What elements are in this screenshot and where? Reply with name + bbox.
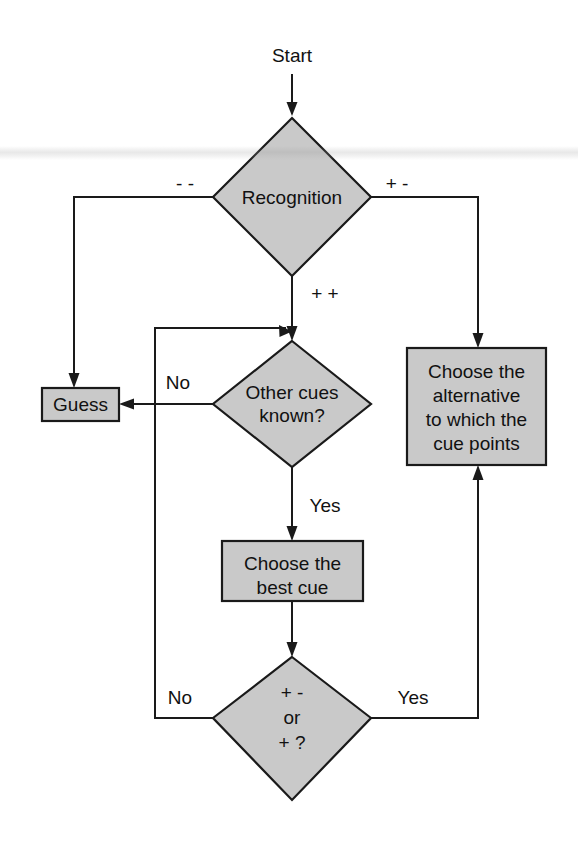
edge-recognition-positive-negative: [371, 197, 484, 348]
edge-validity-yes: [371, 465, 484, 718]
node-choose-alternative-line-3: to which the: [426, 409, 527, 430]
edge-label-recognition-left: - -: [176, 173, 194, 194]
node-guess[interactable]: Guess: [42, 388, 119, 421]
node-cue-validity[interactable]: + - or + ?: [213, 657, 371, 800]
flowchart-canvas: Recognition Other cues known? + - or + ?…: [0, 0, 578, 861]
edge-recognition-negative: [69, 197, 214, 388]
node-choose-alternative[interactable]: Choose the alternative to which the cue …: [407, 348, 546, 465]
node-choose-alternative-line-1: Choose the: [428, 361, 525, 382]
node-other-cues-line-2: known?: [259, 405, 325, 426]
node-choose-best-cue[interactable]: Choose the best cue: [222, 541, 363, 601]
edge-label-recognition-down: + +: [311, 283, 338, 304]
node-choose-best-cue-line-1: Choose the: [244, 553, 341, 574]
start-label: Start: [272, 45, 313, 66]
node-guess-label: Guess: [53, 394, 108, 415]
edge-start-to-recognition: [287, 74, 298, 116]
flowchart-svg: Recognition Other cues known? + - or + ?…: [0, 0, 578, 861]
node-cue-validity-line-2: or: [284, 707, 302, 728]
node-other-cues[interactable]: Other cues known?: [213, 341, 371, 467]
node-choose-alternative-line-4: cue points: [433, 433, 520, 454]
node-cue-validity-line-3: + ?: [279, 732, 306, 753]
edge-other-cues-yes: [287, 467, 298, 541]
node-recognition-label: Recognition: [242, 187, 342, 208]
edge-label-other-cues-yes: Yes: [310, 495, 341, 516]
node-choose-alternative-line-2: alternative: [433, 385, 521, 406]
edge-best-cue-to-validity: [287, 601, 298, 657]
edge-label-validity-no: No: [168, 687, 192, 708]
node-recognition[interactable]: Recognition: [213, 118, 371, 276]
edge-label-validity-yes: Yes: [398, 687, 429, 708]
node-other-cues-line-1: Other cues: [246, 382, 339, 403]
node-choose-best-cue-line-2: best cue: [257, 577, 329, 598]
node-cue-validity-line-1: + -: [281, 682, 304, 703]
edge-other-cues-no: [119, 399, 213, 410]
edge-label-recognition-right: + -: [386, 173, 409, 194]
edge-label-other-cues-no: No: [166, 372, 190, 393]
